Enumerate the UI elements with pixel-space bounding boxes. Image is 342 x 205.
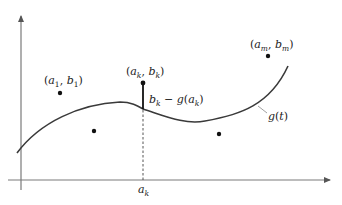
label-residual: bk − g(ak) — [149, 93, 204, 108]
point-unlabeled-left — [92, 129, 96, 133]
point-unlabeled-right — [217, 132, 221, 136]
label-am-bm: (am, bm) — [250, 38, 293, 53]
label-x-ak: ak — [138, 183, 150, 198]
point-ak-bk — [141, 81, 146, 86]
label-a1-b1: (a1, b1) — [44, 74, 83, 89]
point-a1-b1 — [58, 91, 62, 95]
label-ak-bk: (ak, bk) — [126, 65, 164, 80]
curve-label-leader — [258, 106, 267, 113]
least-squares-diagram: (a1, b1) (ak, bk) (am, bm) bk − g(ak) g(… — [0, 0, 342, 205]
label-curve-g-t: g(t) — [268, 110, 288, 123]
point-am-bm — [266, 54, 270, 58]
